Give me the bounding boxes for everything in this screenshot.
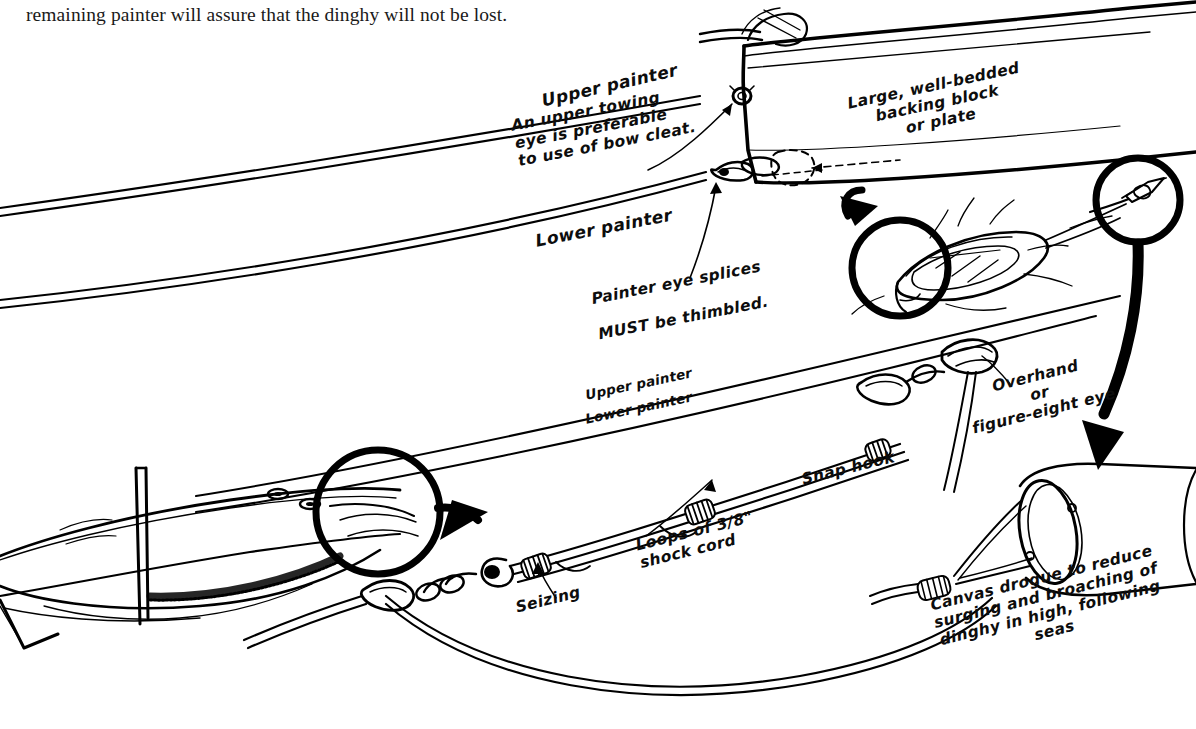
- shackle: [414, 558, 513, 603]
- painter-eye-splices-line2: be thimbled.: [647, 293, 770, 334]
- painter-eye-splices-must: MUST: [597, 316, 651, 343]
- diagram-page: remaining painter will assure that the d…: [0, 0, 1196, 729]
- bridle-knot: [244, 581, 414, 649]
- drogue-detail-circle: [1070, 158, 1180, 242]
- water-spray: [852, 198, 1072, 314]
- seizings: [520, 438, 893, 580]
- sailboat-detail-circle: [316, 450, 440, 574]
- dinghy-detail-circle: [852, 220, 948, 316]
- towing-eye: [730, 86, 754, 104]
- bow-cleat: [711, 158, 779, 181]
- drogue-bridle-upper: [386, 596, 992, 687]
- snap-hook: [857, 362, 944, 404]
